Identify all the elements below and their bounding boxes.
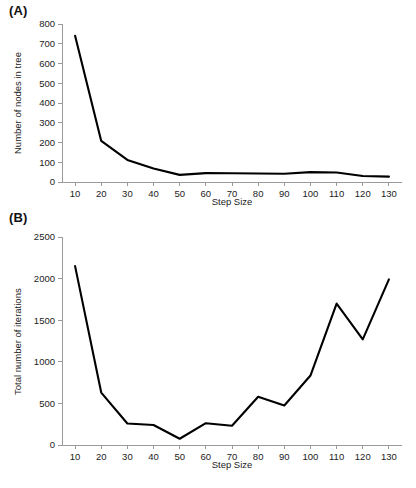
y-tick-label: 2000: [34, 273, 55, 284]
y-tick-label: 500: [39, 78, 55, 89]
panel-b-y-axis-title: Total number of iterations: [12, 288, 23, 395]
y-tick-label: 1500: [34, 315, 55, 326]
panel-b-x-axis-title: Step Size: [172, 459, 292, 470]
x-tick-label: 110: [329, 451, 344, 460]
x-tick-label: 110: [329, 188, 344, 199]
y-tick-label: 100: [39, 157, 55, 168]
x-tick-label: 100: [303, 188, 319, 199]
y-tick-label: 500: [39, 398, 55, 409]
chart-panel-a: (A) Number of nodes in tree Step Size 01…: [0, 0, 416, 215]
x-tick-label: 10: [70, 451, 81, 460]
x-tick-label: 10: [70, 188, 81, 199]
x-tick-label: 20: [96, 188, 107, 199]
y-tick-label: 800: [39, 18, 55, 29]
x-tick-label: 120: [355, 188, 371, 199]
y-tick-label: 600: [39, 58, 55, 69]
x-tick-label: 130: [381, 451, 397, 460]
x-tick-label: 20: [96, 451, 107, 460]
panel-b-plot-area: Total number of iterations Step Size 050…: [0, 210, 416, 488]
y-tick-label: 1000: [34, 356, 55, 367]
y-tick-label: 300: [39, 117, 55, 128]
chart-panel-b: (B) Total number of iterations Step Size…: [0, 210, 416, 488]
data-series-line: [75, 266, 389, 439]
x-tick-label: 100: [303, 451, 319, 460]
x-tick-label: 40: [148, 188, 159, 199]
x-tick-label: 30: [122, 451, 133, 460]
panel-a-y-axis-title: Number of nodes in tree: [12, 52, 23, 154]
y-tick-label: 400: [39, 97, 55, 108]
y-tick-label: 700: [39, 38, 55, 49]
x-tick-label: 30: [122, 188, 133, 199]
y-tick-label: 2500: [34, 231, 55, 242]
y-tick-label: 200: [39, 137, 55, 148]
x-tick-label: 40: [148, 451, 159, 460]
x-tick-label: 120: [355, 451, 371, 460]
y-tick-label: 0: [50, 176, 55, 187]
figure-container: (A) Number of nodes in tree Step Size 01…: [0, 0, 416, 488]
panel-a-plot-area: Number of nodes in tree Step Size 010020…: [0, 0, 416, 215]
panel-b-svg: 0500100015002000250010203040506070809010…: [0, 210, 416, 460]
data-series-line: [75, 36, 389, 177]
panel-a-svg: 0100200300400500600700800102030405060708…: [0, 0, 416, 200]
x-tick-label: 130: [381, 188, 397, 199]
y-tick-label: 0: [50, 439, 55, 450]
panel-a-x-axis-title: Step Size: [172, 196, 292, 207]
